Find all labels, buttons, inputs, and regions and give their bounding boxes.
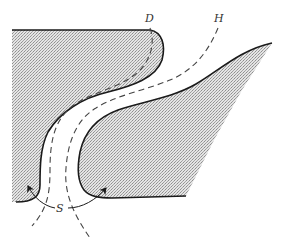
label-h: H xyxy=(213,12,224,25)
fold-diagram: D H S xyxy=(0,0,286,250)
label-d: D xyxy=(144,12,154,25)
label-s: S xyxy=(56,202,64,215)
